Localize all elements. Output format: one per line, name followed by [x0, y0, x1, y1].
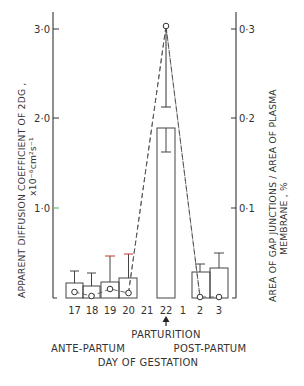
left-axis-title: APPARENT DIFFUSION COEFFICIENT OF 2DG , [16, 83, 27, 298]
post-partum-label: POST-PARTUM [174, 343, 247, 354]
right-tick-2: 0·2 [239, 113, 255, 124]
x-label-21: 21 [141, 305, 154, 316]
point-day-22 [163, 23, 169, 29]
point-day-20 [126, 290, 132, 296]
x-label-17: 17 [68, 305, 81, 316]
bar-post-day-3 [210, 268, 228, 298]
x-axis-labels: 17 18 19 20 21 22 1 2 3 [68, 305, 222, 316]
left-axis: 1·0 2·0 3·0 APPARENT DIFFUSION COEFFICIE… [16, 12, 59, 298]
point-day-19 [107, 286, 113, 292]
x-label-post-2: 2 [197, 305, 203, 316]
right-axis-title: AREA OF GAP JUNCTIONS / AREA OF PLASMA [267, 89, 278, 302]
bar-day-22 [157, 128, 175, 298]
chart: 1·0 2·0 3·0 APPARENT DIFFUSION COEFFICIE… [0, 0, 304, 386]
x-axis-title: DAY OF GESTATION [98, 357, 199, 368]
left-tick-3: 3·0 [34, 24, 50, 35]
point-day-18 [89, 293, 95, 299]
bars [66, 128, 228, 298]
right-tick-3: 0·3 [239, 24, 255, 35]
x-label-post-1: 1 [180, 305, 186, 316]
left-tick-2: 2·0 [34, 113, 50, 124]
right-axis-units: MEMBRANE , % [278, 182, 289, 255]
left-tick-1: 1·0 [34, 203, 50, 214]
parturition-arrow-icon [163, 316, 170, 326]
diffusion-series [72, 23, 222, 300]
left-axis-units: x10⁻⁶cm²s⁻¹ [27, 137, 38, 196]
right-tick-1: 0·1 [239, 203, 255, 214]
parturition-label: PARTURITION [131, 329, 201, 340]
point-post-day-3 [216, 294, 222, 300]
x-label-19: 19 [104, 305, 117, 316]
point-post-day-2 [197, 294, 203, 300]
x-label-20: 20 [122, 305, 135, 316]
point-day-17 [72, 289, 78, 295]
right-axis: 0·1 0·2 0·3 AREA OF GAP JUNCTIONS / AREA… [231, 12, 289, 302]
ante-partum-label: ANTE-PARTUM [51, 343, 125, 354]
x-label-post-3: 3 [216, 305, 222, 316]
x-label-22: 22 [160, 305, 173, 316]
x-label-18: 18 [86, 305, 99, 316]
